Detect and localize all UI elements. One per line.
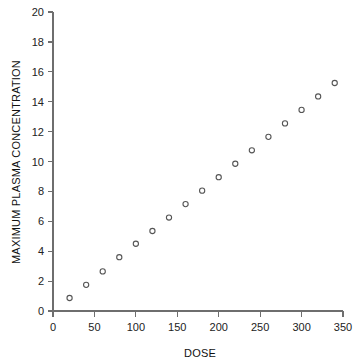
y-tick-label: 14: [32, 96, 44, 108]
x-axis-title: DOSE: [184, 347, 216, 359]
x-tick-label: 200: [210, 321, 228, 333]
data-point: [316, 94, 321, 99]
data-point: [133, 241, 138, 246]
y-tick-label: 18: [32, 36, 44, 48]
data-point: [117, 255, 122, 260]
data-point: [216, 175, 221, 180]
y-axis-title: MAXIMUM PLASMA CONCENTRATION: [10, 60, 22, 264]
plot-canvas: 050100150200250300350 02468101214161820 …: [0, 0, 360, 364]
data-point: [249, 148, 254, 153]
ticks-group: [48, 12, 343, 317]
x-tick-label: 150: [168, 321, 186, 333]
x-tick-label: 0: [50, 321, 56, 333]
y-tick-label: 4: [38, 245, 44, 257]
data-point: [282, 121, 287, 126]
x-tick-label: 250: [251, 321, 269, 333]
data-point: [183, 202, 188, 207]
y-tick-label: 20: [32, 6, 44, 18]
data-point: [166, 215, 171, 220]
y-tick-label: 12: [32, 126, 44, 138]
y-tick-label: 0: [38, 305, 44, 317]
y-tick-label: 16: [32, 66, 44, 78]
data-point: [200, 188, 205, 193]
y-tick-labels: 02468101214161820: [32, 6, 44, 317]
axis-spines: [53, 12, 343, 311]
data-point: [299, 107, 304, 112]
x-tick-labels: 050100150200250300350: [50, 321, 352, 333]
x-tick-label: 100: [127, 321, 145, 333]
scatter-plot-figure: 050100150200250300350 02468101214161820 …: [0, 0, 360, 364]
data-point: [100, 269, 105, 274]
data-point: [332, 80, 337, 85]
data-point: [233, 161, 238, 166]
y-tick-label: 6: [38, 215, 44, 227]
y-tick-label: 10: [32, 156, 44, 168]
x-tick-label: 300: [292, 321, 310, 333]
y-tick-label: 2: [38, 275, 44, 287]
data-points-group: [67, 80, 337, 300]
y-tick-label: 8: [38, 185, 44, 197]
x-tick-label: 50: [88, 321, 100, 333]
axes-group: [53, 12, 343, 311]
data-point: [67, 295, 72, 300]
x-tick-label: 350: [334, 321, 352, 333]
data-point: [266, 134, 271, 139]
data-point: [150, 228, 155, 233]
data-point: [84, 282, 89, 287]
